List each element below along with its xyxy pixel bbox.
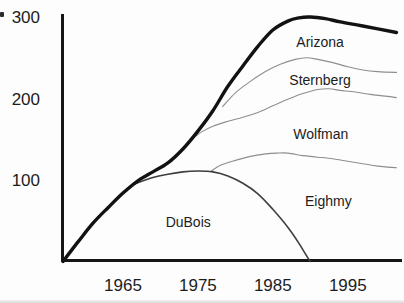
y-tick-label-200: 200: [12, 90, 40, 109]
series-label-sternberg: Sternberg: [289, 72, 350, 88]
x-tick-label-1975: 1975: [179, 276, 217, 295]
series-line-dubois: [134, 171, 310, 262]
population-estimates-chart: ArizonaSternbergWolfmanEighmyDuBois10020…: [0, 0, 404, 303]
series-label-arizona: Arizona: [296, 34, 344, 50]
series-label-eighmy: Eighmy: [305, 193, 352, 209]
x-tick-label-1985: 1985: [254, 276, 292, 295]
series-line-eighmy: [211, 153, 396, 171]
x-tick-label-1965: 1965: [104, 276, 142, 295]
chart-canvas: ArizonaSternbergWolfmanEighmyDuBois10020…: [0, 0, 404, 303]
x-tick-label-1995: 1995: [329, 276, 367, 295]
y-tick-label-100: 100: [12, 171, 40, 190]
scan-artifact-mark: [0, 12, 4, 17]
series-label-dubois: DuBois: [166, 214, 211, 230]
series-label-wolfman: Wolfman: [293, 126, 348, 142]
y-tick-label-300: 300: [12, 8, 40, 27]
